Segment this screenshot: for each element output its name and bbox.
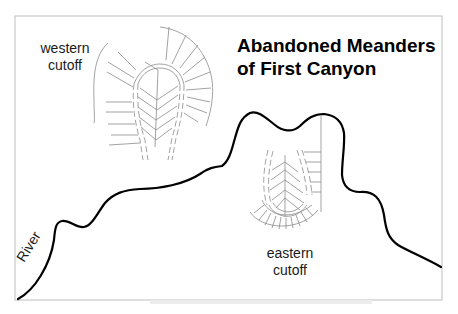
eastern-label-line-1: eastern (255, 245, 325, 262)
eastern-cutoff-label: eastern cutoff (255, 245, 325, 279)
bottom-divider (150, 300, 372, 304)
western-cutoff-label: western cutoff (30, 40, 100, 74)
title-line-1: Abandoned Meanders (237, 34, 435, 57)
river-line (18, 112, 441, 299)
eastern-cutoff-sketch (250, 116, 321, 229)
title-line-2: of First Canyon (237, 57, 435, 80)
eastern-label-line-2: cutoff (255, 262, 325, 279)
western-label-line-2: cutoff (30, 57, 100, 74)
western-label-line-1: western (30, 40, 100, 57)
diagram-title: Abandoned Meanders of First Canyon (237, 34, 435, 80)
western-cutoff-sketch (94, 27, 213, 160)
